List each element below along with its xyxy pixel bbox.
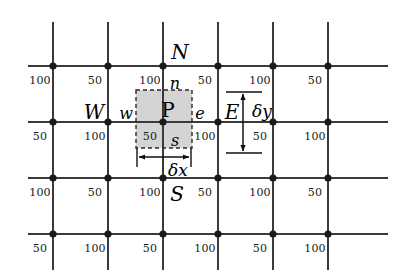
cell-value: 50: [33, 242, 47, 255]
cell-value: 100: [194, 130, 216, 143]
cell-value: 100: [139, 186, 161, 199]
cell-value: 50: [143, 130, 157, 143]
grid-node: [49, 118, 56, 125]
cell-value: 50: [88, 186, 102, 199]
cell-value: 100: [29, 186, 51, 199]
cell-value: 100: [29, 74, 51, 87]
grid-horizontal-lines: [28, 66, 388, 234]
cell-value: 50: [33, 130, 47, 143]
grid-node: [49, 230, 56, 237]
grid-node: [269, 62, 276, 69]
finite-volume-grid-figure: 100 50 100 50 100 50 50 100 50 100 50 10…: [0, 0, 407, 278]
grid-node: [324, 174, 331, 181]
grid-node: [49, 174, 56, 181]
label-center-p: P: [161, 100, 174, 120]
grid-node: [104, 230, 111, 237]
cell-value: 100: [304, 130, 326, 143]
cell-value: 100: [249, 74, 271, 87]
grid-node: [269, 174, 276, 181]
label-face-north: n: [170, 76, 180, 92]
cell-value: 50: [253, 242, 267, 255]
cell-value: 50: [253, 130, 267, 143]
label-face-east: e: [195, 106, 204, 122]
cell-value: 50: [88, 74, 102, 87]
label-north: N: [171, 42, 189, 62]
cell-value: 100: [249, 186, 271, 199]
label-delta-x: δx: [168, 162, 188, 179]
grid-node: [214, 230, 221, 237]
grid-node-s: [159, 174, 166, 181]
cell-value: 50: [308, 186, 322, 199]
cell-value: 50: [143, 242, 157, 255]
grid-node-e: [214, 118, 221, 125]
label-delta-y: δy: [252, 103, 272, 120]
grid-node: [49, 62, 56, 69]
label-west: W: [84, 102, 105, 122]
grid-node: [104, 174, 111, 181]
cell-value: 100: [84, 130, 106, 143]
grid-node: [214, 62, 221, 69]
label-face-south: s: [171, 133, 179, 149]
label-face-west: w: [119, 106, 133, 122]
cell-value: 100: [304, 242, 326, 255]
label-east: E: [225, 102, 240, 122]
grid-node: [324, 118, 331, 125]
grid-node: [324, 62, 331, 69]
grid-node: [159, 230, 166, 237]
cell-value: 100: [194, 242, 216, 255]
cell-value: 50: [308, 74, 322, 87]
cell-value: 100: [139, 74, 161, 87]
grid-node: [214, 174, 221, 181]
grid-node: [104, 118, 111, 125]
cell-value: 100: [84, 242, 106, 255]
grid-node: [159, 62, 166, 69]
grid-node: [104, 62, 111, 69]
label-south: S: [170, 184, 184, 204]
grid-node: [324, 230, 331, 237]
grid-node: [269, 230, 276, 237]
cell-value: 50: [198, 74, 212, 87]
cell-value: 50: [198, 186, 212, 199]
